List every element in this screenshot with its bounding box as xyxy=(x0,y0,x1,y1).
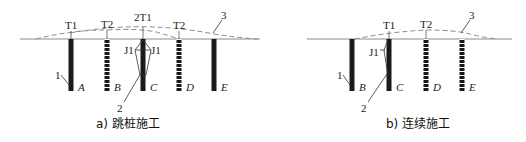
pile-c xyxy=(141,39,146,91)
pile-e xyxy=(212,39,217,91)
callout-2: 2 xyxy=(361,102,367,114)
label-t1: T1 xyxy=(383,19,395,31)
caption-b: b) 连续施工 xyxy=(386,116,450,131)
callout-line-1 xyxy=(61,75,69,85)
pile-c xyxy=(387,39,392,91)
callout-3: 3 xyxy=(469,9,475,21)
callout-line-2 xyxy=(368,74,387,102)
label-2t1: 2T1 xyxy=(134,11,152,23)
pile-label-d: D xyxy=(432,81,441,93)
callout-line-3 xyxy=(461,20,470,33)
heave-curve-inner xyxy=(36,29,180,39)
caption-a: a) 跳桩施工 xyxy=(96,116,160,131)
pile-label-e: E xyxy=(220,81,228,93)
label-j1-right: J1 xyxy=(151,44,161,56)
label-j1-left: J1 xyxy=(124,44,134,56)
pile-label-c: C xyxy=(396,81,404,93)
label-t2: T2 xyxy=(101,18,113,30)
heave-curve-outer xyxy=(70,27,258,39)
label-j1: J1 xyxy=(369,46,379,58)
pile-label-c: C xyxy=(150,81,158,93)
label-t2: T2 xyxy=(420,18,432,30)
callout-line-2 xyxy=(124,73,141,102)
pile-e xyxy=(460,39,465,91)
pile-label-e: E xyxy=(468,81,476,93)
pile-a xyxy=(69,39,74,91)
pile-label-b: B xyxy=(114,81,121,93)
label-t1: T1 xyxy=(65,19,77,31)
panel-a: T1 T2 2T1 T2 J1 J1 A B C D E 1 2 3 a) 跳桩… xyxy=(20,9,260,131)
pile-label-b: B xyxy=(359,81,366,93)
pile-b xyxy=(105,39,110,91)
label-t2: T2 xyxy=(173,19,185,31)
pile-construction-diagram: T1 T2 2T1 T2 J1 J1 A B C D E 1 2 3 a) 跳桩… xyxy=(0,0,526,142)
panel-b: T1 T2 J1 B C D E 1 2 3 b) 连续施工 xyxy=(307,9,512,131)
pile-d xyxy=(177,39,182,91)
heave-curve xyxy=(355,30,498,39)
callout-1: 1 xyxy=(337,69,343,81)
callout-3: 3 xyxy=(221,9,227,21)
pile-label-d: D xyxy=(185,81,194,93)
callout-1: 1 xyxy=(55,69,61,81)
pile-label-a: A xyxy=(77,81,85,93)
pile-d xyxy=(424,39,429,91)
callout-2: 2 xyxy=(117,102,123,114)
callout-line-3 xyxy=(213,20,222,33)
callout-line-1 xyxy=(343,75,350,85)
pile-b xyxy=(350,39,355,91)
